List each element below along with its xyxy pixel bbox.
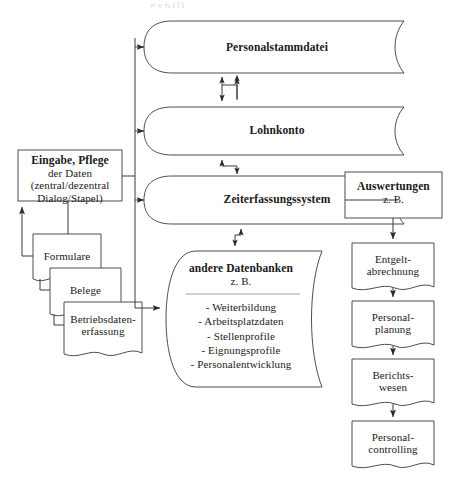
andere-datenbanken-title: andere Datenbanken bbox=[166, 262, 316, 275]
connector-personalstammdatei-lohnkonto bbox=[222, 75, 237, 101]
document-label-belege: Belege bbox=[50, 284, 121, 296]
list-item: - Stellenprofile bbox=[166, 329, 316, 343]
output-label-personalcontrolling: Personal- controlling bbox=[352, 431, 434, 456]
berichtswesen-line2: wesen bbox=[352, 381, 434, 393]
evaluations-box-label: Auswertungen z. B. bbox=[345, 180, 442, 205]
entgelt-line1: Entgelt- bbox=[352, 253, 434, 265]
document-label-betriebsdatenerfassung: Betriebsdaten- erfassung bbox=[64, 313, 142, 338]
input-box-line4: Dialog/Stapel) bbox=[18, 192, 122, 204]
output-label-personalplanung: Personal- planung bbox=[352, 311, 434, 336]
list-item: - Weiterbildung bbox=[166, 300, 316, 314]
entgelt-line2: abrechnung bbox=[352, 265, 434, 277]
list-item: - Eignungsprofile bbox=[166, 343, 316, 357]
betriebsdaten-line1: Betriebsdaten- bbox=[64, 313, 142, 325]
input-box-line3: (zentral/dezentral bbox=[18, 179, 122, 191]
personalcontrolling-line2: controlling bbox=[352, 443, 434, 455]
database-label-personalstammdatei: Personalstammdatei bbox=[152, 41, 402, 54]
betriebsdaten-line2: erfassung bbox=[64, 325, 142, 337]
evaluations-line1: Auswertungen bbox=[345, 180, 442, 193]
diagram-canvas: g y p (1) bbox=[0, 0, 454, 477]
andere-datenbanken-header: andere Datenbanken z. B. bbox=[166, 262, 316, 287]
database-label-lohnkonto: Lohnkonto bbox=[152, 124, 402, 137]
connector-lohnkonto-zeiterfassung bbox=[222, 160, 237, 174]
connector-input-trunk bbox=[122, 38, 135, 308]
andere-datenbanken-list: - Weiterbildung - Arbeitsplatzdaten - St… bbox=[166, 300, 316, 371]
list-item: - Personalentwicklung bbox=[166, 357, 316, 371]
input-box-line1: Eingabe, Pflege bbox=[18, 154, 122, 167]
andere-datenbanken-subtitle: z. B. bbox=[166, 275, 316, 287]
output-label-berichtswesen: Berichts- wesen bbox=[352, 369, 434, 394]
personalplanung-line2: planung bbox=[352, 323, 434, 335]
diagram-vector-layer bbox=[0, 0, 454, 477]
connector-zeiterfassung-andere-datenbanken bbox=[235, 229, 241, 246]
list-item: - Arbeitsplatzdaten bbox=[166, 314, 316, 328]
berichtswesen-line1: Berichts- bbox=[352, 369, 434, 381]
personalcontrolling-line1: Personal- bbox=[352, 431, 434, 443]
input-box-label: Eingabe, Pflege der Daten (zentral/dezen… bbox=[18, 154, 122, 204]
input-box-line2: der Daten bbox=[18, 167, 122, 179]
document-label-formulare: Formulare bbox=[33, 250, 101, 262]
output-label-entgeltabrechnung: Entgelt- abrechnung bbox=[352, 253, 434, 278]
evaluations-line2: z. B. bbox=[345, 193, 442, 205]
personalplanung-line1: Personal- bbox=[352, 311, 434, 323]
